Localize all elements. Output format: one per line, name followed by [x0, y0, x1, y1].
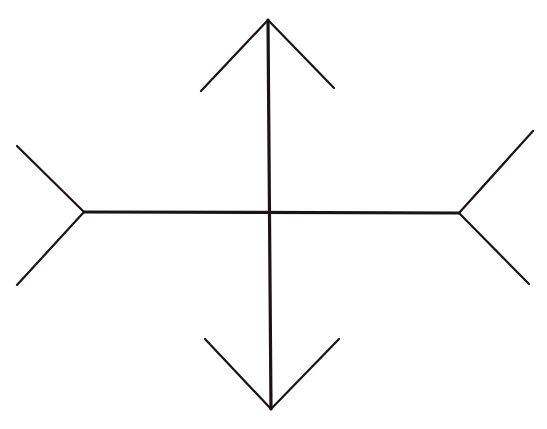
horizontal-shaft [84, 212, 459, 213]
muller-lyer-figure [0, 0, 547, 429]
